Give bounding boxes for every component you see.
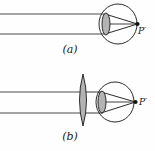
panel-b-group — [0, 74, 138, 126]
panel-b-caption: (b) — [50, 130, 90, 143]
panel-b-focus-point — [133, 100, 137, 104]
figure-canvas — [0, 0, 155, 151]
panel-b-corrective-lens — [80, 74, 87, 126]
panel-a-caption: (a) — [50, 43, 90, 56]
panel-a-cornea-lens — [102, 13, 110, 35]
optics-figure: P′ P′ (a) (b) — [0, 0, 155, 151]
panel-a-group — [0, 4, 140, 44]
panel-a-focus-label: P′ — [138, 26, 146, 36]
panel-b-focus-label: P′ — [139, 97, 147, 107]
panel-b-cornea-lens — [98, 91, 106, 113]
